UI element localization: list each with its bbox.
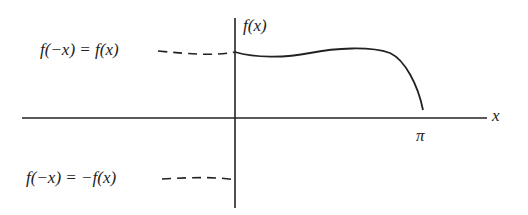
even-extension-dashes — [158, 51, 235, 54]
even-extension-label: f(−x) = f(x) — [40, 40, 119, 60]
odd-extension-label: f(−x) = −f(x) — [26, 168, 116, 188]
function-curve — [235, 48, 423, 110]
y-axis-label: f(x) — [243, 16, 267, 36]
pi-tick-label: π — [416, 126, 425, 146]
x-axis-label: x — [492, 106, 500, 126]
odd-extension-dashes — [162, 178, 235, 180]
